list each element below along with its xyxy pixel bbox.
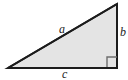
label-side-a: a xyxy=(59,23,65,35)
label-side-b: b xyxy=(120,26,126,38)
right-triangle-figure: a b c xyxy=(0,0,128,80)
label-side-c: c xyxy=(62,68,67,80)
